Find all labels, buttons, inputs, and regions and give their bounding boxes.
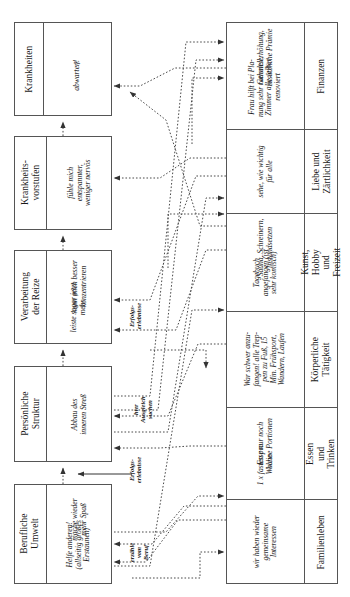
koerper-entries: War schwer anzu- fangen! alle Trep- pen … [227, 312, 304, 407]
table-row-essen-trinken: Esse nur noch kleine Portionen 1 x faste… [227, 407, 337, 499]
liebe-label-cell: Liebe und Zärtlichkeit [304, 130, 337, 213]
table-row-koerperliche-taetigkeit: War schwer anzu- fangen! alle Trep- pen … [227, 311, 337, 407]
card-krankheitsvorstufen-header-cell: Krankheits- vorstufen [15, 137, 47, 229]
card-berufliche-umwelt-body: mache wieder mehr Spaß Helfe anderen! (a… [47, 485, 111, 583]
card-krankheiten-header: Krankheiten [24, 46, 35, 93]
card-krankheitsvorstufen-body: fühle mich entspannter, weniger nervös [47, 137, 111, 229]
finanzen-entries: Gehaltserhöhung, zusätzliche Prämie Frau… [227, 23, 304, 129]
connector-label-text: hier Ausgleich suchen [132, 393, 153, 427]
familie-entries: wir haben wieder gemeinsame Interessen [227, 500, 304, 584]
koerper-label-cell: Körperliche Tätigkeit [304, 312, 337, 407]
arrow-kunst-to-krankheiten [130, 92, 226, 226]
table-row-liebe-zaertlichkeit: sehe, wie wichtig für alle Liebe und Zär… [227, 129, 337, 213]
finanzen-label-cell: Finanzen [304, 23, 337, 129]
card-persoenliche-struktur-header: Persönliche Struktur [20, 392, 41, 436]
diagram-canvas: Krankheiten ? abwarten! Krankheits- vors… [0, 0, 350, 597]
card-persoenliche-struktur-body: Abbau des inneren Streß [47, 367, 111, 461]
cell-entry: wir haben wieder gemeinsame Interessen [253, 515, 279, 568]
essen-entries: Esse nur noch kleine Portionen 1 x faste… [227, 408, 304, 499]
card-krankheitsvorstufen-header: Krankheits- vorstufen [20, 161, 41, 206]
finanzen-label: Finanzen [316, 59, 327, 94]
arrow-finanzen-to-krankheiten [114, 68, 226, 86]
life-areas-table: Gehaltserhöhung, zusätzliche Prämie Frau… [226, 22, 338, 584]
connector-label-text: Erfolgs- erlebnisse [128, 457, 142, 483]
card-entry: abwarten! [73, 60, 82, 91]
card-berufliche-umwelt-header: Berufliche Umwelt [20, 514, 41, 554]
arrow-to-koerper-2 [150, 350, 206, 368]
arrow-liebe-to-verarbeitung [114, 176, 226, 300]
card-persoenliche-struktur: Persönliche Struktur Abbau des inneren S… [14, 366, 112, 462]
connector-label-hier-ausgleich-suchen: hier Ausgleich suchen [126, 382, 160, 438]
cell-entry: sehe, wie wichtig für alle [257, 145, 274, 197]
familie-label: Familienleben [316, 515, 327, 569]
familie-label-cell: Familienleben [304, 500, 337, 584]
arrow-liebe-to-vorstufen [114, 158, 226, 178]
card-krankheiten: Krankheiten ? abwarten! [14, 22, 112, 116]
cell-entry: Tagebuch angefangen (ist sehr komisch) [253, 249, 279, 296]
card-entry: leiste sogar jetzt mehr [71, 283, 88, 333]
kunst-entries: Sauna, Schreinern, Instandsetzen Tagebuc… [227, 214, 304, 311]
card-entry: fühle mich entspannter, weniger nervös [66, 160, 92, 207]
connector-label-text: erzähle vom Beruf [128, 543, 149, 562]
liebe-entries: sehe, wie wichtig für alle [227, 130, 304, 213]
liebe-label: Liebe und Zärtlichkeit [310, 149, 331, 193]
connector-label-erzaehle-vom-beruf: erzähle vom Beruf [120, 528, 158, 578]
card-krankheiten-body: ? abwarten! [44, 23, 111, 115]
connector-label-erfolgserlebnisse-top: Erfolgs- erlebnisse [118, 294, 152, 338]
card-persoenliche-struktur-header-cell: Persönliche Struktur [15, 367, 47, 461]
cell-entry: Frau hilft bei Pla- nung sehr rationell,… [249, 56, 283, 116]
card-verarbeitung-der-reize: Verarbeitung der Reize kann mich besser … [14, 250, 112, 344]
essen-label-cell: Essen und Trinken [304, 408, 337, 499]
card-verarbeitung-header-cell: Verarbeitung der Reize [15, 251, 47, 343]
cell-entry: War schwer anzu- fangen! alle Trep- pen … [244, 332, 287, 387]
card-krankheitsvorstufen: Krankheits- vorstufen fühle mich entspan… [14, 136, 112, 230]
card-krankheiten-header-cell: Krankheiten [15, 23, 44, 115]
card-entry: Abbau des inneren Streß [71, 394, 88, 435]
arrow-to-finanzen-3 [192, 78, 224, 144]
kunst-label-cell: Kunst, Hobby und Freizeit [304, 214, 337, 311]
card-verarbeitung-header: Verarbeitung der Reize [20, 272, 41, 321]
card-entry: Helfe anderen! (allseitig großes Erstaun… [66, 520, 92, 569]
card-verarbeitung-body: kann mich besser konzentrieren leiste so… [47, 251, 111, 343]
table-row-finanzen: Gehaltserhöhung, zusätzliche Prämie Frau… [227, 23, 337, 129]
connector-label-text: Erfolgs- erlebnisse [128, 303, 142, 329]
cell-entry: 1 x fasten pro Woche [257, 443, 274, 484]
kunst-label: Kunst, Hobby und Freizeit [300, 247, 343, 279]
essen-label: Essen und Trinken [305, 438, 337, 470]
arrow-umwelt-to-familie [114, 496, 224, 532]
card-berufliche-umwelt-header-cell: Berufliche Umwelt [15, 485, 47, 583]
arrow-to-kunst-2 [168, 214, 224, 268]
arrow-struktur-to-finanzen [114, 42, 224, 396]
table-row-familienleben: wir haben wieder gemeinsame Interessen F… [227, 499, 337, 583]
table-row-kunst-hobby-freizeit: Sauna, Schreinern, Instandsetzen Tagebuc… [227, 213, 337, 311]
arrow-struktur-to-finanzen-2 [114, 60, 224, 410]
card-berufliche-umwelt: Berufliche Umwelt mache wieder mehr Spaß… [14, 484, 112, 584]
connector-label-erfolgserlebnisse-bottom: Erfolgs- erlebnisse [118, 448, 152, 492]
koerper-label: Körperliche Tätigkeit [310, 337, 331, 382]
